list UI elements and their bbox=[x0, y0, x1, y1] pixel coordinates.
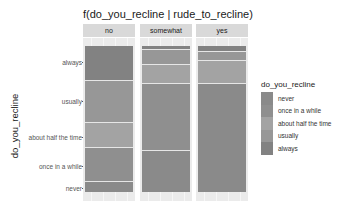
facet-panel-yes: yes bbox=[196, 24, 248, 37]
legend-label: once in a while bbox=[278, 107, 321, 114]
legend-label: always bbox=[278, 145, 298, 152]
stacked-bar bbox=[198, 46, 246, 192]
legend-item: never bbox=[261, 92, 331, 105]
legend-label: about half the time bbox=[278, 120, 331, 127]
y-axis-label: usually bbox=[62, 98, 82, 105]
legend-swatch bbox=[261, 117, 273, 130]
bar-segment bbox=[85, 46, 133, 81]
legend-label: usually bbox=[278, 132, 298, 139]
facet-panel-no: no bbox=[83, 24, 135, 37]
legend-title: do_you_recline bbox=[261, 80, 331, 89]
bar-segment bbox=[85, 148, 133, 182]
facet-strip-label: yes bbox=[196, 24, 248, 37]
stacked-bar bbox=[85, 46, 133, 192]
bar-segment bbox=[85, 81, 133, 123]
bar-segment bbox=[85, 123, 133, 148]
facet-strip-label: somewhat bbox=[140, 24, 192, 37]
bar-segment bbox=[198, 61, 246, 84]
legend-swatch bbox=[261, 92, 273, 105]
legend-swatch bbox=[261, 142, 273, 155]
stacked-bar bbox=[142, 46, 190, 192]
legend-label: never bbox=[278, 95, 294, 102]
facet-panel-somewhat: somewhat bbox=[140, 24, 192, 37]
y-axis-label: once in a while bbox=[39, 163, 82, 170]
legend-item: usually bbox=[261, 130, 331, 143]
legend-swatch bbox=[261, 105, 273, 118]
bar-segment bbox=[198, 84, 246, 192]
bar-segment bbox=[142, 84, 190, 151]
legend-item: always bbox=[261, 142, 331, 155]
y-axis-label: never bbox=[66, 185, 82, 192]
bar-segment bbox=[142, 65, 190, 84]
chart-title: f(do_you_recline | rude_to_recline) bbox=[83, 8, 253, 20]
bar-segment bbox=[198, 52, 246, 61]
bar-segment bbox=[142, 151, 190, 192]
y-axis-label: always bbox=[62, 59, 82, 66]
legend-items: neveronce in a whileabout half the timeu… bbox=[261, 92, 331, 155]
bar-segment bbox=[142, 50, 190, 65]
y-axis-title: do_you_recline bbox=[9, 94, 20, 158]
y-axis-label: about half the time bbox=[29, 134, 82, 141]
bar-segment bbox=[85, 182, 133, 192]
facet-strip-label: no bbox=[83, 24, 135, 37]
legend-item: about half the time bbox=[261, 117, 331, 130]
legend-item: once in a while bbox=[261, 105, 331, 118]
legend: do_you_recline neveronce in a whileabout… bbox=[261, 80, 331, 155]
legend-swatch bbox=[261, 130, 273, 143]
